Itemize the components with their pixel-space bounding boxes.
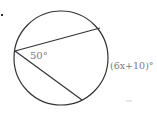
problem-marker-dot: [1, 14, 3, 16]
arc-measure-label: (6x+10)°: [110, 60, 154, 71]
circle: [14, 11, 108, 105]
chord-upper: [15, 28, 100, 51]
inscribed-angle-diagram: 50° (6x+10)°: [0, 0, 157, 116]
inscribed-angle-label: 50°: [30, 50, 48, 61]
chord-lower: [15, 51, 82, 100]
